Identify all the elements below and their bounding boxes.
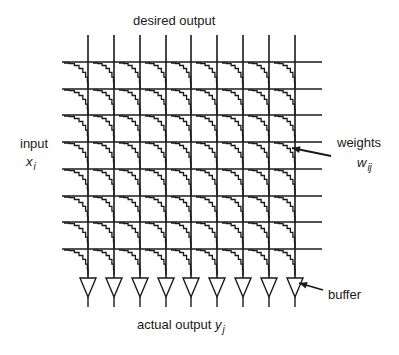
- weight-staircase: [274, 63, 295, 88]
- buffer-triangle-icon: [132, 278, 148, 297]
- weights-variable: wij: [357, 156, 372, 169]
- weight-staircase: [196, 223, 217, 248]
- weight-staircase: [196, 116, 217, 141]
- weight-staircase: [196, 170, 217, 195]
- buffer-triangle-icon: [183, 278, 199, 297]
- weight-staircase: [93, 223, 114, 248]
- weight-staircase: [145, 116, 166, 141]
- weight-staircase: [196, 63, 217, 88]
- weight-staircase: [145, 143, 166, 168]
- weight-staircase: [145, 63, 166, 88]
- weight-staircase: [171, 197, 191, 222]
- actual-output-text: actual output: [137, 317, 211, 332]
- weight-staircase: [93, 116, 114, 141]
- weight-staircase: [222, 250, 243, 275]
- weight-staircase: [248, 223, 269, 248]
- weight-staircase: [145, 197, 166, 222]
- weight-staircase: [222, 90, 243, 115]
- buffer-triangle-icon: [287, 278, 303, 297]
- weight-staircase: [248, 143, 269, 168]
- weight-staircase: [119, 63, 140, 88]
- weights-var-sub: ij: [367, 162, 371, 173]
- weight-staircase: [222, 223, 243, 248]
- buffer-triangle-icon: [235, 278, 251, 297]
- weight-staircase: [119, 197, 140, 222]
- weight-staircase: [274, 116, 295, 141]
- weight-staircase: [171, 90, 191, 115]
- weight-staircase: [119, 170, 140, 195]
- output-var-sub: j: [223, 324, 225, 335]
- annotation-arrows: [292, 146, 331, 290]
- weight-staircase: [196, 250, 217, 275]
- weight-staircase: [171, 63, 191, 88]
- weight-staircase: [64, 116, 88, 141]
- weight-staircase: [248, 170, 269, 195]
- weight-staircase: [93, 90, 114, 115]
- input-var-sub: i: [34, 161, 36, 172]
- weight-staircase: [119, 143, 140, 168]
- weight-staircase: [248, 116, 269, 141]
- weight-staircase: [274, 143, 295, 168]
- weight-staircase: [196, 143, 217, 168]
- weight-staircase: [274, 250, 295, 275]
- weight-staircase: [119, 90, 140, 115]
- weight-staircase: [171, 223, 191, 248]
- weight-staircase: [93, 143, 114, 168]
- weight-staircase: [196, 90, 217, 115]
- weight-staircase: [64, 90, 88, 115]
- weight-staircase: [93, 197, 114, 222]
- weight-staircase: [171, 116, 191, 141]
- weight-staircase: [248, 90, 269, 115]
- weight-staircase: [171, 170, 191, 195]
- weight-staircase: [222, 63, 243, 88]
- weight-staircase: [145, 250, 166, 275]
- output-var-y: y: [215, 317, 222, 332]
- weight-staircase: [145, 223, 166, 248]
- weight-staircase: [222, 197, 243, 222]
- weight-staircase: [171, 143, 191, 168]
- weight-staircase: [93, 170, 114, 195]
- input-label: input: [20, 137, 48, 150]
- weight-staircase: [64, 250, 88, 275]
- weight-staircase: [248, 63, 269, 88]
- weight-staircase: [222, 116, 243, 141]
- buffer-label: buffer: [328, 288, 361, 301]
- weight-staircase: [274, 223, 295, 248]
- weight-staircase: [93, 250, 114, 275]
- weight-staircase: [64, 197, 88, 222]
- weight-staircase: [64, 63, 88, 88]
- buffer-triangle-icon: [80, 278, 96, 297]
- weight-staircase: [64, 143, 88, 168]
- weight-staircase: [145, 90, 166, 115]
- weight-staircase: [119, 116, 140, 141]
- weight-staircase: [248, 197, 269, 222]
- weight-staircase: [248, 250, 269, 275]
- buffer-triangle-icon: [209, 278, 225, 297]
- buffer-triangle-icon: [158, 278, 174, 297]
- input-variable: xi: [26, 155, 36, 168]
- weight-staircase: [64, 223, 88, 248]
- buffer-triangle-icon: [106, 278, 122, 297]
- desired-output-label: desired output: [133, 14, 215, 27]
- weight-staircase: [274, 197, 295, 222]
- weights-label: weights: [337, 136, 381, 149]
- weight-staircase: [119, 250, 140, 275]
- buffer-amplifiers: [80, 278, 303, 307]
- weight-staircase: [222, 170, 243, 195]
- weight-staircase: [274, 90, 295, 115]
- input-var-x: x: [26, 154, 33, 169]
- weight-staircase: [274, 170, 295, 195]
- weight-staircase: [171, 250, 191, 275]
- weight-staircase: [222, 143, 243, 168]
- weight-staircase: [64, 170, 88, 195]
- weight-staircase: [196, 197, 217, 222]
- actual-output-label: actual output yj: [137, 318, 225, 331]
- weights-var-w: w: [357, 155, 366, 170]
- buffer-triangle-icon: [261, 278, 277, 297]
- weight-staircase: [119, 223, 140, 248]
- weight-staircase: [145, 170, 166, 195]
- weight-staircase: [93, 63, 114, 88]
